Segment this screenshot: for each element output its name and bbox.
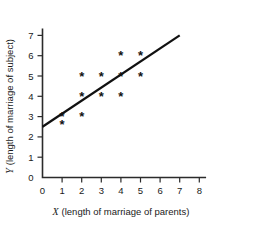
data-points: ************ (60, 48, 144, 132)
data-point: * (138, 69, 144, 84)
data-point: * (99, 89, 105, 104)
plot-canvas: 01234567801234567 ************ X(length … (0, 0, 258, 237)
data-point: * (99, 69, 105, 84)
data-point: * (118, 48, 124, 63)
y-axis-title-text: (length of marriage of subject) (4, 39, 15, 165)
data-point: * (79, 89, 85, 104)
y-tick-label-4: 4 (28, 91, 33, 102)
x-axis-title-variable: X (51, 206, 59, 217)
y-tick-label-3: 3 (28, 111, 33, 122)
data-point: * (60, 117, 66, 132)
x-axis-title-text: (length of marriage of parents) (62, 206, 190, 217)
y-tick-label-5: 5 (28, 71, 33, 82)
x-tick-label-3: 3 (99, 185, 104, 196)
x-tick-label-7: 7 (177, 185, 182, 196)
x-tick-label-4: 4 (118, 185, 123, 196)
x-tick-label-5: 5 (138, 185, 143, 196)
x-tick-label-6: 6 (157, 185, 162, 196)
x-axis-title: X(length of marriage of parents) (51, 206, 189, 217)
y-tick-label-1: 1 (28, 152, 33, 163)
y-tick-label-0: 0 (28, 172, 33, 183)
y-tick-label-7: 7 (28, 30, 33, 41)
scatter-plot-figure: 01234567801234567 ************ X(length … (0, 0, 258, 237)
y-axis-title: Y(length of marriage of subject) (4, 39, 15, 174)
tick-labels: 01234567801234567 (28, 30, 202, 196)
y-axis-title-variable: Y (4, 167, 15, 174)
data-point: * (118, 69, 124, 84)
y-tick-label-2: 2 (28, 131, 33, 142)
data-point: * (118, 89, 124, 104)
x-tick-label-2: 2 (79, 185, 84, 196)
x-tick-label-0: 0 (40, 185, 45, 196)
x-tick-label-8: 8 (197, 185, 202, 196)
data-point: * (79, 109, 85, 124)
axes (43, 29, 206, 177)
axis-lines (43, 29, 206, 177)
y-tick-label-6: 6 (28, 50, 33, 61)
data-point: * (79, 69, 85, 84)
x-tick-label-1: 1 (59, 185, 64, 196)
